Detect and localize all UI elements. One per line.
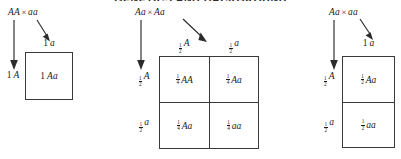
punnett-panel-1: AA×aa 1a 1A 1Aa	[0, 0, 120, 159]
punnett-panel-3: Aa×aa 1a 12A 12a 12Aa 12aa	[300, 0, 401, 159]
fraction-numerator: 1	[324, 76, 328, 81]
fraction-one-half: 12	[361, 74, 365, 86]
parent1-genotype: AA	[8, 7, 20, 17]
fraction-denominator: 2	[179, 48, 183, 54]
column-header-1-0: 1a	[25, 38, 73, 48]
fraction-denominator: 2	[229, 48, 233, 54]
fraction-one-quarter: 14	[226, 74, 230, 86]
cell-genotype: Aa	[47, 71, 58, 81]
fraction-denominator: 2	[324, 81, 328, 87]
fraction-denominator: 4	[177, 125, 181, 131]
row-header-2-1: 12a	[131, 117, 157, 134]
fraction-denominator: 2	[361, 79, 365, 85]
fraction-numerator: 1	[176, 74, 180, 79]
fraction-one-half: 12	[179, 43, 183, 55]
row-header-3-0: 12A	[316, 71, 342, 88]
fraction-numerator: 1	[229, 43, 233, 48]
fraction-numerator: 1	[139, 122, 143, 127]
row-header-coefficient: 1	[7, 70, 12, 80]
fraction-numerator: 1	[361, 74, 365, 79]
fraction-denominator: 2	[139, 81, 143, 87]
punnett-cell-2-1-1: 14aa	[210, 103, 258, 148]
fraction-one-half: 12	[139, 76, 143, 88]
cell-genotype: aa	[366, 120, 376, 130]
row-header-allele: a	[144, 117, 149, 127]
fraction-numerator: 1	[177, 120, 181, 125]
column-header-2-0: 12A	[159, 38, 209, 55]
fraction-denominator: 2	[361, 125, 365, 131]
cell-genotype: Aa	[182, 121, 193, 131]
column-header-3-0: 1a	[342, 38, 395, 48]
column-header-allele: a	[234, 38, 239, 48]
column-header-allele: A	[184, 38, 190, 48]
cell-genotype: Aa	[231, 75, 242, 85]
fraction-one-half: 12	[229, 43, 233, 55]
cross-operator: ×	[146, 7, 154, 17]
fraction-one-half: 12	[361, 119, 365, 131]
column-header-allele: a	[370, 38, 375, 48]
row-header-2-0: 12A	[131, 71, 157, 88]
fraction-one-half: 12	[324, 76, 328, 88]
row-header-3-1: 12a	[316, 117, 342, 134]
fraction-one-quarter: 14	[177, 120, 181, 132]
punnett-grid-1: 1Aa	[25, 52, 73, 100]
cross-label-1: AA×aa	[8, 7, 38, 17]
fraction-numerator: 1	[361, 119, 365, 124]
fraction-numerator: 1	[226, 74, 230, 79]
parent2-genotype: aa	[348, 7, 358, 17]
fraction-denominator: 4	[227, 125, 231, 131]
row-header-allele: a	[329, 117, 334, 127]
cross-operator: ×	[340, 7, 348, 17]
fraction-denominator: 2	[324, 127, 328, 133]
cell-genotype: Aa	[366, 75, 377, 85]
fraction-denominator: 4	[226, 79, 230, 85]
cell-genotype: AA	[181, 75, 193, 85]
fraction-one-quarter: 14	[227, 120, 231, 132]
punnett-cell-2-0-1: 14Aa	[210, 57, 258, 102]
column-header-coefficient: 1	[43, 38, 48, 48]
punnett-cell-3-0-0: 12Aa	[343, 57, 394, 102]
cross-operator: ×	[20, 7, 28, 17]
fraction-one-quarter: 14	[176, 74, 180, 86]
punnett-cell-3-1-0: 12aa	[343, 103, 394, 147]
punnett-cell-2-0-0: 14AA	[160, 57, 209, 102]
fraction-numerator: 1	[324, 122, 328, 127]
punnett-cell-1-0-0: 1Aa	[26, 53, 72, 99]
cross-label-3: Aa×aa	[329, 7, 358, 17]
row-header-allele: A	[144, 71, 150, 81]
parent1-genotype: Aa	[135, 7, 146, 17]
fraction-numerator: 1	[139, 76, 143, 81]
parent2-genotype: aa	[28, 7, 38, 17]
fraction-numerator: 1	[179, 43, 183, 48]
cross-label-2: Aa×Aa	[135, 7, 165, 17]
cell-genotype: aa	[232, 121, 242, 131]
punnett-square-figure: GENETICS AND BACKGROUND AA×aa 1a 1A 1Aa	[0, 0, 401, 159]
parent2-genotype: Aa	[154, 7, 165, 17]
fraction-denominator: 2	[139, 127, 143, 133]
punnett-grid-3: 12Aa 12aa	[342, 56, 395, 148]
punnett-panel-2: Aa×Aa 12A 12a 12A 12a 14AA	[126, 0, 271, 159]
fraction-one-half: 12	[139, 122, 143, 134]
row-header-allele: A	[13, 70, 19, 80]
column-header-allele: a	[50, 38, 55, 48]
cell-coefficient: 1	[40, 71, 45, 81]
column-header-2-1: 12a	[209, 38, 259, 55]
fraction-one-half: 12	[324, 122, 328, 134]
row-header-1-0: 1A	[3, 70, 23, 80]
column-header-coefficient: 1	[363, 38, 368, 48]
fraction-numerator: 1	[227, 120, 231, 125]
punnett-cell-2-1-0: 14Aa	[160, 103, 209, 148]
row-header-allele: A	[329, 71, 335, 81]
parent1-genotype: Aa	[329, 7, 340, 17]
punnett-grid-2: 14AA 14Aa 14Aa 14aa	[159, 56, 259, 149]
fraction-denominator: 4	[176, 79, 180, 85]
